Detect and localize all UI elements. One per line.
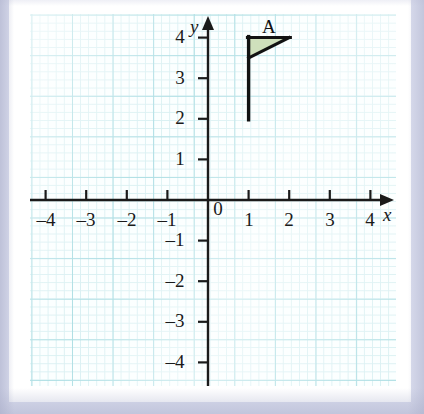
y-tick-label-1: 1 <box>168 148 192 170</box>
y-tick-label--4: –4 <box>158 351 192 373</box>
origin-label: 0 <box>209 198 227 220</box>
x-tick-label--2: –2 <box>113 209 141 231</box>
shape-a[interactable] <box>247 37 290 120</box>
x-tick-label--4: –4 <box>32 209 60 231</box>
x-tick-label-4: 4 <box>356 209 384 231</box>
y-tick-label--1: –1 <box>158 229 192 251</box>
x-axis-label: x <box>383 204 391 226</box>
coordinate-grid-panel: y x 0 –4 –3 –2 –1 1 2 3 4 4 3 2 1 –1 –2 … <box>30 14 396 386</box>
y-axis-arrow-icon <box>202 16 214 30</box>
y-tick-label--3: –3 <box>158 310 192 332</box>
x-tick-label--1: –1 <box>153 209 181 231</box>
shape-a-label: A <box>262 16 276 38</box>
y-tick-label-4: 4 <box>168 26 192 48</box>
x-tick-label--3: –3 <box>72 209 100 231</box>
x-tick-label-2: 2 <box>275 209 303 231</box>
y-tick-label--2: –2 <box>158 270 192 292</box>
figure-page: y x 0 –4 –3 –2 –1 1 2 3 4 4 3 2 1 –1 –2 … <box>0 0 424 414</box>
y-tick-label-2: 2 <box>168 107 192 129</box>
y-tick-label-3: 3 <box>168 67 192 89</box>
x-tick-label-3: 3 <box>316 209 344 231</box>
x-tick-label-1: 1 <box>235 209 263 231</box>
